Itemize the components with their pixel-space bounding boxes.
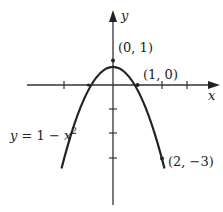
y-axis-label: y (120, 8, 129, 23)
parabola-chart: y x (0, 1) (1, 0) (2, −3) y = 1 − x2 (0, 0, 223, 212)
point-root-neg (87, 83, 90, 86)
equation-label: y = 1 − x2 (9, 126, 77, 143)
annotation-point: (2, −3) (168, 154, 214, 169)
point-vertex (111, 59, 115, 63)
point-root (136, 83, 140, 87)
x-axis-label: x (208, 88, 216, 103)
annotation-root: (1, 0) (143, 67, 178, 82)
point-2-neg3 (160, 157, 164, 161)
y-axis-arrow-icon (109, 10, 117, 22)
annotation-vertex: (0, 1) (118, 40, 153, 55)
